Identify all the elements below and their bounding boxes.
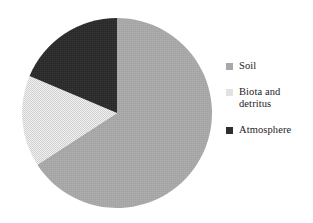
pie-chart-svg (0, 0, 225, 223)
legend-label-soil: Soil (239, 60, 256, 72)
legend-swatch-atmosphere (226, 127, 233, 134)
legend-item-atmosphere: Atmosphere (226, 124, 313, 136)
chart-legend: Soil Biota and detritus Atmosphere (226, 60, 313, 136)
legend-item-biota-and-detritus: Biota and detritus (226, 86, 313, 110)
legend-swatch-biota-and-detritus (226, 89, 233, 96)
pie-chart-plot-area (0, 0, 225, 223)
pie-chart-figure: Soil Biota and detritus Atmosphere (0, 0, 313, 223)
legend-item-soil: Soil (226, 60, 313, 72)
legend-swatch-soil (226, 63, 233, 70)
legend-label-biota-and-detritus: Biota and detritus (239, 86, 280, 110)
legend-label-atmosphere: Atmosphere (239, 124, 291, 136)
